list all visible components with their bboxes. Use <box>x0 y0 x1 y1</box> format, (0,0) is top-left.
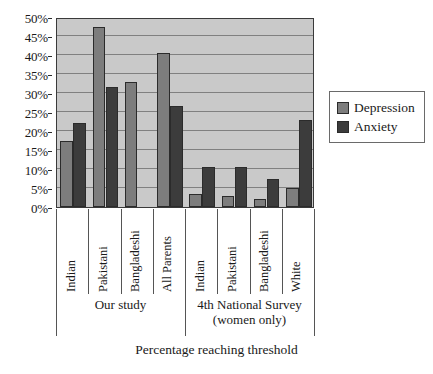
bar-depression-7 <box>286 188 299 207</box>
group-label: 4th National Survey (women only) <box>185 297 314 327</box>
legend-item-depression: Depression <box>337 98 415 117</box>
category-label: Indian <box>194 207 207 292</box>
anxiety-swatch-icon <box>337 121 349 133</box>
category-separator <box>217 209 218 294</box>
y-tick-label: 5% <box>31 183 48 196</box>
y-tick-label: 0% <box>31 202 48 215</box>
group-label: Our study <box>56 297 185 312</box>
bar-chart-figure: 0%5%10%15%20%25%30%35%40%45%50% IndianPa… <box>0 0 433 374</box>
depression-swatch-icon <box>337 102 349 114</box>
y-tick-label: 15% <box>25 145 48 158</box>
y-tick-label: 45% <box>25 31 48 44</box>
category-label: Bangladeshi <box>129 207 142 292</box>
category-separator <box>282 209 283 294</box>
y-tick-mark <box>48 56 52 57</box>
y-tick-mark <box>48 170 52 171</box>
y-tick-label: 25% <box>25 107 48 120</box>
bar-anxiety-0 <box>73 123 86 207</box>
y-tick-mark <box>48 75 52 76</box>
bar-depression-6 <box>254 199 267 207</box>
bar-depression-0 <box>60 141 73 208</box>
bar-anxiety-5 <box>235 167 248 207</box>
legend-label-depression: Depression <box>354 101 415 115</box>
group-separator <box>314 209 315 336</box>
category-separator <box>88 209 89 294</box>
y-axis: 0%5%10%15%20%25%30%35%40%45%50% <box>0 14 52 208</box>
category-label: Bangladeshi <box>258 207 271 292</box>
bar-depression-1 <box>93 27 106 208</box>
plot-area <box>56 18 314 208</box>
category-separator <box>153 209 154 294</box>
group-axis: Our study4th National Survey (women only… <box>56 294 314 336</box>
category-label: White <box>290 207 303 292</box>
bar-anxiety-3 <box>170 106 183 207</box>
bar-depression-4 <box>189 194 202 207</box>
y-tick-mark <box>48 132 52 133</box>
category-separator <box>121 209 122 294</box>
x-axis-caption: Percentage reaching threshold <box>0 342 433 358</box>
y-tick-label: 10% <box>25 164 48 177</box>
y-tick-mark <box>48 151 52 152</box>
category-label: Indian <box>65 207 78 292</box>
y-tick-label: 20% <box>25 126 48 139</box>
y-tick-label: 30% <box>25 88 48 101</box>
bar-depression-5 <box>222 196 235 207</box>
bar-anxiety-7 <box>299 120 312 207</box>
y-tick-label: 50% <box>25 12 48 25</box>
category-label: All Parents <box>161 207 174 292</box>
legend-item-anxiety: Anxiety <box>337 117 415 136</box>
bar-anxiety-1 <box>106 87 119 207</box>
y-tick-mark <box>48 94 52 95</box>
y-tick-mark <box>48 37 52 38</box>
bar-anxiety-4 <box>202 167 215 207</box>
category-separator <box>250 209 251 294</box>
y-tick-mark <box>48 113 52 114</box>
bars-layer <box>57 19 313 207</box>
bar-depression-3 <box>157 53 170 207</box>
group-separator <box>56 209 57 336</box>
bar-anxiety-6 <box>267 179 280 208</box>
category-label: Pakistani <box>97 207 110 292</box>
y-tick-label: 40% <box>25 50 48 63</box>
y-tick-label: 35% <box>25 69 48 82</box>
y-tick-mark <box>48 208 52 209</box>
chart-legend: Depression Anxiety <box>329 91 425 143</box>
y-tick-mark <box>48 189 52 190</box>
bar-depression-2 <box>125 82 138 207</box>
legend-label-anxiety: Anxiety <box>354 120 398 134</box>
category-label: Pakistani <box>226 207 239 292</box>
y-tick-mark <box>48 18 52 19</box>
